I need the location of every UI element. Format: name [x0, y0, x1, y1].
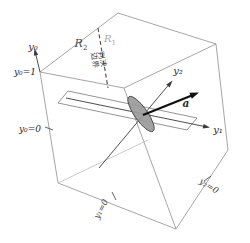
cube-edge-top-front-right: [124, 44, 216, 88]
tick-marks: [45, 127, 211, 200]
cube-edge-bottom-left: [58, 183, 176, 229]
vector-a-arrowhead-icon: [189, 93, 199, 99]
cube-wireframe: [40, 13, 228, 229]
figure-3d-feature-space: y₀ y₀=1 y₀=0 y₁ y₂ a y₁=0 y₂=0 R2 R1 判决 …: [0, 0, 250, 243]
region-r2-label: R2: [75, 38, 88, 52]
y0-equals-1-label: y₀=1: [14, 68, 36, 77]
diagram-canvas: [0, 0, 250, 243]
y2-axis-label: y₂: [173, 66, 183, 76]
cube-edge-left-vertical: [40, 72, 58, 183]
region-r2-subscript: 2: [83, 44, 87, 52]
cube-edge-top-front-left: [40, 72, 124, 88]
weight-vector-a-label: a: [183, 98, 190, 109]
data-distribution-ellipse: [124, 93, 159, 135]
region-r1-label: R1: [104, 34, 116, 47]
y1-axis-label: y₁: [213, 125, 223, 135]
cube-edge-bottom-back-hidden: [58, 140, 148, 183]
y1-arrowhead-icon: [203, 124, 210, 128]
region-r1-letter: R: [104, 33, 112, 44]
cube-edge-top-right: [118, 13, 216, 44]
tick-y1-0: [112, 192, 116, 200]
cube-edge-bottom-right: [176, 150, 228, 229]
y0-equals-0-label: y₀=0: [19, 125, 41, 134]
y2-axis-line: [99, 82, 171, 168]
y0-axis-label: y₀: [28, 42, 38, 52]
decision-boundary-annotation: 判决 边界: [88, 50, 107, 69]
region-r1-subscript: 1: [112, 39, 116, 47]
